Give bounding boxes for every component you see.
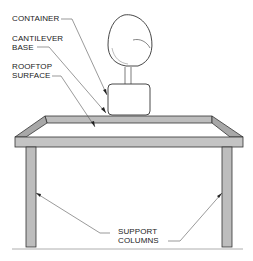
cantilever-base xyxy=(108,84,150,115)
front-beam xyxy=(15,137,243,147)
arrowhead xyxy=(36,193,41,197)
label-rooftop-surface-line2: SURFACE xyxy=(12,71,51,81)
container-leader xyxy=(61,19,107,95)
right-column-leader xyxy=(168,193,222,241)
left-side-beam xyxy=(15,116,47,137)
back-beam xyxy=(45,116,212,123)
label-support-columns-line2: COLUMNS xyxy=(118,236,159,246)
arrowhead xyxy=(217,193,222,198)
left-support-column xyxy=(26,147,36,247)
left-column-leader xyxy=(36,193,110,233)
label-cantilever-base-line2: BASE xyxy=(12,43,34,53)
right-side-beam xyxy=(212,116,243,137)
label-container: CONTAINER xyxy=(12,14,59,24)
container-shell xyxy=(108,15,152,66)
arrowhead xyxy=(103,89,107,95)
right-support-column xyxy=(222,147,232,247)
